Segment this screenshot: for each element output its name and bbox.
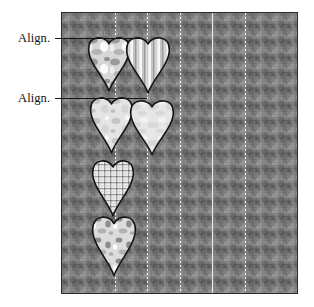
guide-line-guide-3 [180, 13, 181, 293]
callout-label-align-top: Align. [18, 31, 50, 46]
heart-applique-heart-4 [130, 98, 174, 155]
heart-shape-vertical-stripe [126, 35, 170, 93]
diagram-canvas: Align.Align. [0, 0, 314, 307]
heart-applique-heart-6 [92, 214, 136, 276]
heart-shape-gingham-check [92, 158, 134, 216]
guide-line-guide-4 [212, 13, 213, 293]
heart-applique-heart-3 [90, 95, 133, 153]
heart-shape-mottled-marble-pale [90, 95, 133, 153]
heart-applique-heart-5 [92, 158, 134, 216]
guide-line-guide-5 [245, 13, 246, 293]
heart-shape-solid-pale-mottle [130, 98, 174, 155]
heart-shape-mottled-marble-light [88, 35, 130, 91]
callout-leader-line-align-second [55, 98, 147, 99]
patterned-fabric-panel [62, 13, 297, 293]
callout-label-align-second: Align. [18, 91, 50, 106]
callout-leader-line-align-top [55, 38, 143, 39]
heart-shape-mottled-marble-spotty [92, 214, 136, 276]
heart-applique-heart-1 [88, 35, 130, 91]
heart-applique-heart-2 [126, 35, 170, 93]
